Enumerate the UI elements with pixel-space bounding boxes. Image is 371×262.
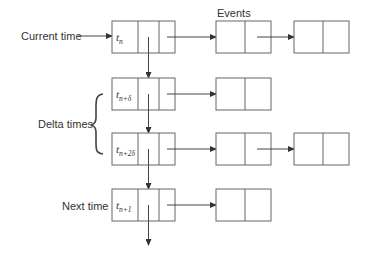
delta-times-brace [91, 94, 103, 154]
time-node-row: tn [112, 21, 349, 78]
next-time-label: Next time [62, 200, 108, 212]
time-subscript: n [119, 37, 123, 46]
event-box [216, 189, 271, 221]
event-box [216, 78, 271, 110]
event-box [294, 133, 349, 165]
event-queue-diagram: Events Current time Delta times Next tim… [0, 0, 371, 262]
time-node-row: tn+2δ [112, 133, 349, 189]
time-node-row: tn+δ [112, 78, 271, 133]
delta-times-label: Delta times [38, 118, 94, 130]
time-subscript: n+1 [119, 205, 132, 214]
events-label: Events [217, 7, 251, 19]
event-box [294, 21, 349, 53]
current-time-label: Current time [21, 30, 82, 42]
time-node-row: tn+1 [112, 189, 271, 245]
time-nodes: tntn+δtn+2δtn+1 [112, 21, 349, 245]
time-subscript: n+2δ [119, 149, 136, 158]
time-subscript: n+δ [119, 94, 132, 103]
